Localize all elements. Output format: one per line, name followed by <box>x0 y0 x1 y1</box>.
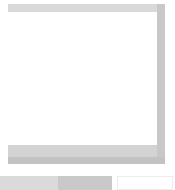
frame-right-edge <box>157 4 165 164</box>
frame-top-edge <box>8 4 162 12</box>
bottom-segment-2[interactable] <box>58 176 112 190</box>
window-fragment <box>0 0 175 190</box>
bottom-segment-1[interactable] <box>0 176 58 190</box>
frame-bottom-edge <box>8 145 157 157</box>
panel-content-area <box>8 12 157 145</box>
bottom-segment-3[interactable] <box>117 176 173 190</box>
frame-bottom-shadow <box>8 157 165 164</box>
